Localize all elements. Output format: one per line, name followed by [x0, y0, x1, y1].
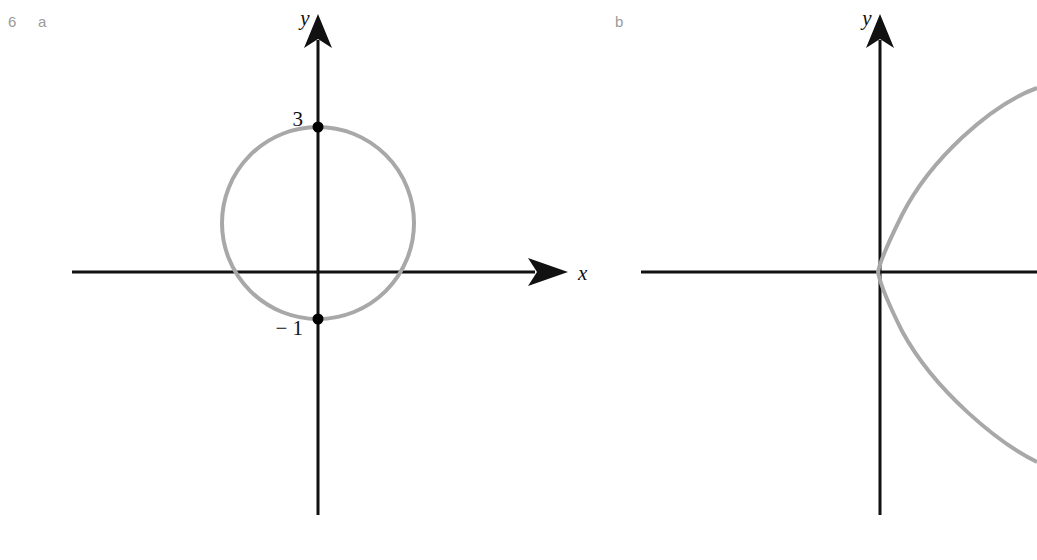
- parabola-curve: [878, 88, 1037, 462]
- y-axis-label: y: [860, 6, 872, 30]
- point-marker-bottom: [313, 314, 324, 325]
- y-axis-label: y: [298, 6, 310, 30]
- point-label-3: 3: [293, 107, 304, 131]
- point-label-minus-1: − 1: [275, 316, 303, 340]
- panel-b-graph: y: [600, 0, 1037, 560]
- panel-a: y x 3 − 1: [0, 0, 600, 560]
- panel-a-graph: y x 3 − 1: [0, 0, 600, 560]
- point-marker-top: [313, 122, 324, 133]
- panel-b: y: [600, 0, 1037, 560]
- figure-canvas: 6 a b y x 3 − 1: [0, 0, 1037, 560]
- x-axis-label: x: [577, 261, 588, 285]
